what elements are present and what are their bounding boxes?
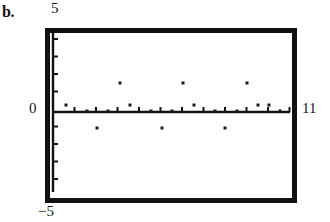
data-point (214, 110, 217, 113)
data-point (129, 104, 132, 107)
data-point-group (65, 82, 282, 130)
plot-frame (48, 31, 295, 201)
data-point (246, 82, 249, 85)
data-point (224, 127, 227, 130)
data-point (161, 127, 164, 130)
plot-frame-border (48, 31, 295, 201)
data-point (107, 110, 110, 113)
data-point (257, 104, 260, 107)
data-point (182, 82, 185, 85)
data-point (150, 110, 153, 113)
data-point (171, 110, 174, 113)
data-point (65, 104, 68, 107)
scatter-plot (0, 0, 330, 222)
data-point (279, 110, 282, 113)
data-point (119, 82, 122, 85)
data-point (96, 127, 99, 130)
data-point (86, 110, 89, 113)
data-point (236, 110, 239, 113)
figure-panel: b. 5 −5 0 11 (0, 0, 330, 222)
data-point (268, 104, 271, 107)
data-point (193, 104, 196, 107)
